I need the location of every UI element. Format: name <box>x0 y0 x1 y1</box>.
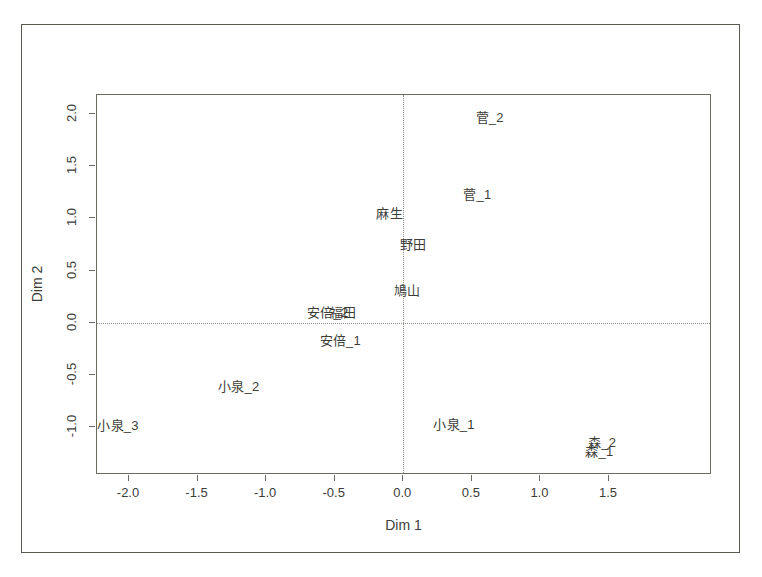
x-axis-tick-label: -0.5 <box>323 485 345 500</box>
data-point-label: 野田 <box>400 238 426 251</box>
x-axis-tick-label: 0.5 <box>462 485 480 500</box>
y-axis-tick <box>89 322 95 323</box>
x-axis-tick-label: -1.5 <box>185 485 207 500</box>
data-point-label: 麻生 <box>376 207 402 220</box>
x-axis-tick-label: 0.0 <box>393 485 411 500</box>
y-axis-tick-label: 1.0 <box>64 204 79 230</box>
x-axis-title-text: Dim 1 <box>385 517 422 533</box>
data-point-label: 小泉_1 <box>433 417 474 430</box>
y-axis-tick <box>89 217 95 218</box>
x-axis-tick <box>471 475 472 481</box>
data-point-label: 鳩山 <box>394 284 420 297</box>
plot-box: 菅_2菅_1麻生野田鳩山安倍_2福田安倍_1小泉_2小泉_3小泉_1森_2森_1 <box>96 94 711 474</box>
data-point-label: 安倍_1 <box>320 334 361 347</box>
data-point-label: 福田 <box>330 306 356 319</box>
x-axis-title: Dim 1 <box>96 517 711 533</box>
y-axis-tick-label: 1.5 <box>64 152 79 178</box>
x-axis-tick-label: 1.5 <box>599 485 617 500</box>
plot-area: 菅_2菅_1麻生野田鳩山安倍_2福田安倍_1小泉_2小泉_3小泉_1森_2森_1 <box>97 95 710 473</box>
y-axis-tick-label: 0.5 <box>64 257 79 283</box>
x-axis-tick-label: -1.0 <box>254 485 276 500</box>
y-axis-tick-label: 0.0 <box>64 309 79 335</box>
x-axis-tick <box>128 475 129 481</box>
data-point-label: 小泉_3 <box>97 418 138 431</box>
y-axis-tick-label: -1.0 <box>64 413 79 439</box>
y-axis-tick <box>89 374 95 375</box>
x-axis-tick <box>539 475 540 481</box>
y-axis-tick-label: -0.5 <box>64 361 79 387</box>
data-point-label: 小泉_2 <box>218 380 259 393</box>
y-axis-title: Dim 2 <box>28 94 46 474</box>
y-axis-tick <box>89 270 95 271</box>
y-axis-tick <box>89 426 95 427</box>
x-axis-tick <box>402 475 403 481</box>
y-axis-tick <box>89 113 95 114</box>
reference-line-horizontal <box>97 323 710 324</box>
x-axis-tick <box>608 475 609 481</box>
data-point-label: 菅_1 <box>463 188 491 201</box>
x-axis-tick <box>334 475 335 481</box>
x-axis-tick-label: 1.0 <box>530 485 548 500</box>
figure-frame: Dim 2 Dim 1 菅_2菅_1麻生野田鳩山安倍_2福田安倍_1小泉_2小泉… <box>21 24 740 553</box>
y-axis-tick <box>89 165 95 166</box>
x-axis-tick-label: -2.0 <box>117 485 139 500</box>
data-point-label: 菅_2 <box>476 111 504 124</box>
data-point-label: 森_1 <box>585 444 613 457</box>
y-axis-tick-label: 2.0 <box>64 100 79 126</box>
x-axis-tick <box>265 475 266 481</box>
x-axis-tick <box>197 475 198 481</box>
y-axis-title-text: Dim 2 <box>29 266 45 303</box>
